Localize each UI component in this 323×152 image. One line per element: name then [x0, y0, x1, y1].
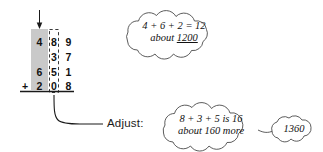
addend-2-ones: 7: [63, 52, 74, 63]
figure-canvas: 4 8 9 3 7 6 5 1 + 2 0 8 Adjust: 4 + 6 + …: [0, 0, 323, 152]
cloud-to-result-link: [258, 130, 273, 132]
addend-4-ones: 8: [63, 81, 74, 92]
cloud-hundreds-line1: 4 + 6 + 2 = 12: [142, 20, 205, 31]
addend-1-tens: 8: [49, 37, 60, 48]
addend-4-hundreds: 2: [34, 81, 45, 92]
addition-operator: +: [20, 81, 30, 92]
cloud-tens-text: 8 + 3 + 5 is 16 about 160 more: [165, 114, 257, 137]
cloud-hundreds-text: 4 + 6 + 2 = 12 about 1200: [128, 21, 220, 44]
addend-1-hundreds: 4: [34, 37, 45, 48]
addend-4-tens: 0: [49, 81, 60, 92]
cloud-hundreds-line2: about 1200: [128, 33, 220, 44]
cloud-tens-line1: 8 + 3 + 5 is 16: [179, 113, 242, 124]
adjust-label: Adjust:: [107, 118, 144, 130]
cloud-hundreds-estimate-value: 1200: [177, 32, 198, 43]
addend-3-hundreds: 6: [34, 67, 45, 78]
result-bubble-text: 1360: [275, 124, 313, 135]
adjust-connector-line: [54, 95, 103, 124]
addend-1-ones: 9: [63, 37, 74, 48]
cloud-tens-line2: about 160 more: [165, 126, 257, 137]
down-arrow-icon: [37, 10, 43, 29]
cloud-hundreds-line2-prefix: about: [150, 32, 177, 43]
addend-3-ones: 1: [63, 67, 74, 78]
addend-2-tens: 3: [49, 52, 60, 63]
addend-3-tens: 5: [49, 67, 60, 78]
